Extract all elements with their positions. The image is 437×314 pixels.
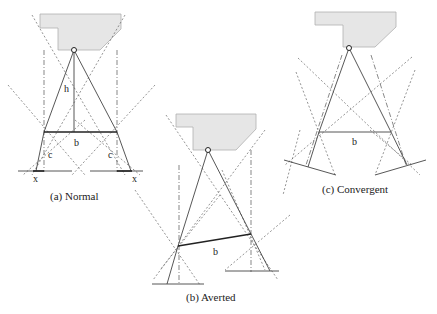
label-b: b	[213, 246, 218, 257]
object-shape	[40, 14, 121, 50]
label-x-left: x	[33, 173, 38, 184]
caption-averted: (b) Averted	[186, 291, 236, 304]
point-marker	[347, 46, 352, 51]
caption-convergent: (c) Convergent	[322, 183, 388, 196]
label-c-left: c	[48, 149, 53, 160]
point-marker	[206, 148, 211, 153]
diagram-averted: b (b) Averted	[135, 114, 290, 304]
caption-normal: (a) Normal	[50, 190, 99, 203]
label-h: h	[64, 83, 69, 94]
label-b: b	[74, 137, 79, 148]
stereo-camera-diagrams: h b c c x x (a) Normal b (b) Averted	[0, 0, 437, 314]
label-c-right: c	[108, 149, 113, 160]
diagram-normal: h b c c x x (a) Normal	[8, 14, 155, 203]
label-b: b	[352, 136, 357, 147]
point-marker	[72, 48, 77, 53]
object-shape	[315, 12, 396, 47]
diagram-convergent: b (c) Convergent	[283, 12, 426, 196]
object-shape	[176, 114, 256, 150]
label-x-right: x	[132, 173, 137, 184]
